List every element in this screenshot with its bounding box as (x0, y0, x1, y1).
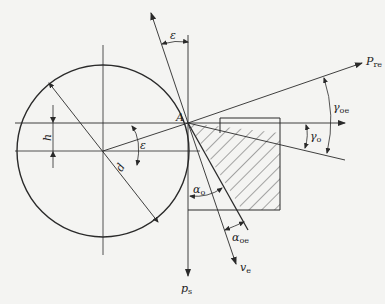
h-label: h (42, 134, 53, 141)
alpha-o-label: αo (193, 184, 205, 197)
gamma-o-label: γo (310, 131, 321, 144)
epsilon-center-label: ε (140, 140, 146, 151)
p-s-label: ps (181, 283, 192, 296)
epsilon-center-arc (132, 126, 139, 165)
gamma-o-arc (305, 125, 307, 148)
v-e-label: ve (240, 262, 251, 275)
cutting-geometry-diagram (0, 0, 385, 304)
point-a-label: A (176, 112, 184, 123)
alpha-oe-label: αoe (232, 232, 249, 245)
gamma-oe-label: γoe (333, 102, 349, 115)
diameter-line (49, 83, 158, 222)
alpha-oe-arc (225, 222, 244, 230)
p-re-label: Pre (366, 56, 382, 69)
epsilon-top-label: ε (170, 30, 176, 41)
gamma-oe-arc (324, 78, 331, 153)
